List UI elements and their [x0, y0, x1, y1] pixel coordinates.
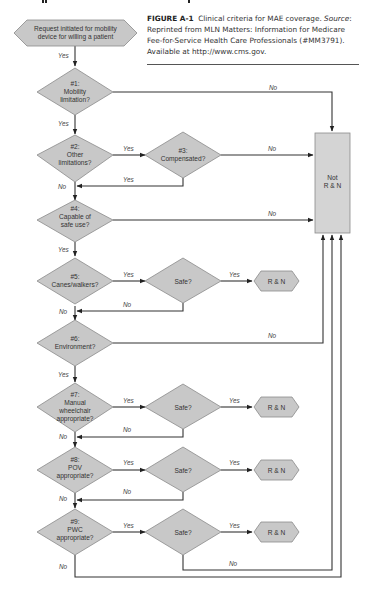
svg-text:No: No	[268, 210, 277, 217]
svg-text:device for willing a patient: device for willing a patient	[38, 33, 114, 41]
svg-text:#1:: #1:	[70, 80, 79, 87]
decision-5-canes-walkers: #5: Canes/walkers?	[37, 258, 113, 304]
svg-text:#5:: #5:	[70, 273, 79, 280]
decision-6-environment: #6: Environment?	[37, 320, 113, 366]
svg-text:limitations?: limitations?	[59, 159, 92, 166]
svg-text:No: No	[58, 183, 67, 190]
svg-text:Canes/walkers?: Canes/walkers?	[52, 281, 99, 288]
mae-flowchart: Yes Yes No Yes No Yes No No Yes Yes Yes …	[0, 0, 372, 598]
svg-text:appropriate?: appropriate?	[56, 472, 93, 480]
decision-5-safe: Safe?	[145, 258, 221, 303]
svg-text:Safe?: Safe?	[174, 278, 192, 285]
svg-text:Yes: Yes	[229, 522, 240, 529]
start-node: Request initiated for mobility device fo…	[14, 20, 137, 46]
svg-text:No: No	[59, 495, 68, 502]
svg-text:#9:: #9:	[70, 518, 79, 525]
svg-text:No: No	[229, 560, 238, 567]
svg-text:Yes: Yes	[229, 459, 240, 466]
svg-text:Yes: Yes	[58, 246, 69, 253]
svg-text:No: No	[59, 563, 68, 570]
svg-text:#8:: #8:	[70, 456, 79, 463]
svg-text:#4:: #4:	[70, 205, 79, 212]
svg-text:appropriate?: appropriate?	[56, 415, 93, 423]
svg-text:Safe?: Safe?	[174, 404, 192, 411]
svg-text:#2:: #2:	[70, 143, 79, 150]
decision-7-safe: Safe?	[145, 384, 221, 429]
svg-text:Not: Not	[327, 174, 337, 181]
svg-text:#6:: #6:	[70, 335, 79, 342]
svg-text:Compensated?: Compensated?	[161, 155, 206, 163]
svg-text:Yes: Yes	[58, 52, 69, 59]
svg-text:No: No	[59, 433, 68, 440]
svg-text:safe use?: safe use?	[61, 221, 90, 228]
decision-9-safe: Safe?	[145, 509, 221, 555]
decision-4-capable-of-safe-use: #4: Capable of safe use?	[37, 200, 113, 242]
svg-text:#3:: #3:	[178, 147, 187, 154]
svg-text:No: No	[269, 84, 278, 91]
svg-text:appropriate?: appropriate?	[56, 534, 93, 542]
outcome-9-r-and-n: R & N	[254, 522, 299, 542]
svg-text:No: No	[123, 426, 132, 433]
svg-text:Request initiated for mobility: Request initiated for mobility	[34, 25, 118, 33]
svg-text:Yes: Yes	[123, 397, 134, 404]
svg-text:Yes: Yes	[123, 176, 134, 183]
decision-8-safe: Safe?	[145, 447, 221, 492]
svg-text:Mobility: Mobility	[64, 88, 87, 96]
svg-text:Yes: Yes	[58, 371, 69, 378]
svg-text:R & N: R & N	[268, 278, 286, 285]
svg-text:Safe?: Safe?	[174, 467, 192, 474]
decision-7-manual-wheelchair: #7: Manual wheelchair appropriate?	[37, 383, 113, 432]
svg-text:Yes: Yes	[123, 522, 134, 529]
svg-text:No: No	[268, 332, 277, 339]
svg-text:Other: Other	[67, 151, 84, 158]
svg-text:R & N: R & N	[268, 404, 286, 411]
svg-text:R & N: R & N	[268, 467, 286, 474]
svg-text:#7:: #7:	[70, 391, 79, 398]
svg-text:Capable of: Capable of	[59, 213, 91, 221]
svg-text:Manual: Manual	[64, 399, 86, 406]
svg-text:No: No	[123, 488, 132, 495]
decision-3-compensated: #3: Compensated?	[145, 132, 221, 178]
svg-text:Safe?: Safe?	[174, 529, 192, 536]
svg-text:wheelchair: wheelchair	[58, 407, 91, 414]
svg-text:No: No	[59, 308, 68, 315]
svg-text:R & N: R & N	[268, 529, 286, 536]
decision-2-other-limitations: #2: Other limitations?	[37, 135, 113, 182]
svg-text:Yes: Yes	[229, 397, 240, 404]
svg-text:R & N: R & N	[324, 182, 342, 189]
svg-text:No: No	[123, 301, 132, 308]
svg-text:limitation?: limitation?	[60, 96, 90, 103]
decision-8-pov: #8: POV appropriate?	[37, 447, 113, 493]
svg-text:No: No	[268, 145, 277, 152]
svg-text:Yes: Yes	[58, 120, 69, 127]
svg-text:POV: POV	[68, 464, 83, 471]
outcome-5-r-and-n: R & N	[254, 271, 299, 291]
svg-text:Environment?: Environment?	[55, 343, 96, 350]
svg-text:PWC: PWC	[67, 526, 83, 533]
outcome-8-r-and-n: R & N	[254, 460, 299, 480]
svg-text:Yes: Yes	[123, 271, 134, 278]
svg-text:Yes: Yes	[123, 145, 134, 152]
svg-text:Yes: Yes	[123, 459, 134, 466]
not-r-and-n-box: Not R & N	[315, 133, 350, 233]
connectors	[75, 46, 341, 577]
decision-9-pwc: #9: PWC appropriate?	[37, 509, 113, 555]
outcome-7-r-and-n: R & N	[254, 397, 299, 417]
decision-1-mobility-limitation: #1: Mobility limitation?	[37, 68, 113, 115]
svg-text:Yes: Yes	[229, 271, 240, 278]
